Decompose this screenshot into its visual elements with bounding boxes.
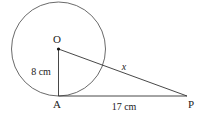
label-OA-length: 8 cm (31, 66, 51, 77)
label-O: O (53, 33, 61, 45)
label-P: P (188, 98, 194, 110)
diagram-canvas: O A P 8 cm x 17 cm (0, 0, 204, 120)
label-OP-x: x (121, 61, 127, 72)
label-AP-length: 17 cm (112, 101, 137, 112)
segment-OP (59, 49, 188, 96)
label-A: A (53, 98, 61, 110)
center-point (57, 47, 60, 50)
